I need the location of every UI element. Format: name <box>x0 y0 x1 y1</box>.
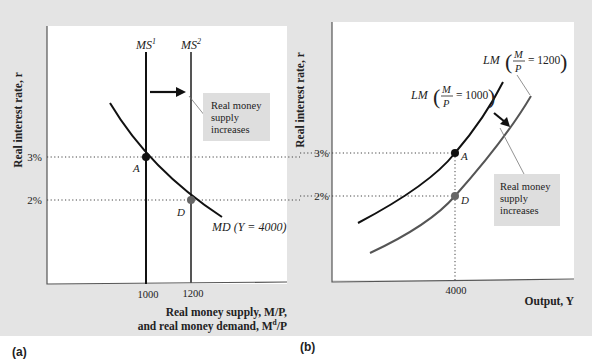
svg-text:(: ( <box>505 49 512 74</box>
panel-a-plot-area <box>47 26 287 284</box>
panel-a-x-axis-label-line1: Real money supply, M/P, <box>166 306 287 319</box>
svg-text:M: M <box>513 49 524 60</box>
panel-b-point-d <box>451 192 459 200</box>
panel-b-y-tick-3: 3% <box>314 147 329 159</box>
svg-text:= 1000: = 1000 <box>456 89 489 101</box>
panel-a-label-d: D <box>176 206 185 218</box>
panel-a-x-axis-label-line2: and real money demand, Md/P <box>138 318 287 333</box>
panel-a-chart: Real interest rate, r 3% 2% MS1 MS2 MD (… <box>12 26 300 333</box>
svg-text:M: M <box>441 84 452 95</box>
svg-text:(: ( <box>433 84 440 109</box>
panel-a-point-d <box>187 196 195 204</box>
panel-a-y-tick-3: 3% <box>27 151 42 163</box>
panel-b-y-tick-2: 2% <box>314 190 329 202</box>
panel-a-label: (a) <box>12 345 27 359</box>
panel-a-y-axis-label: Real interest rate, r <box>12 72 24 168</box>
panel-a-x-tick-1000: 1000 <box>138 289 159 300</box>
panel-b-label: (b) <box>300 340 315 354</box>
svg-text:= 1200: = 1200 <box>528 54 561 66</box>
panel-b-point-a <box>451 149 459 157</box>
svg-text:P: P <box>514 63 522 74</box>
panel-a-label-a: A <box>132 162 140 174</box>
panel-b-chart: Real interest rate, r 3% 2% LM ( M P = 1… <box>294 22 575 308</box>
svg-text:LM: LM <box>410 88 429 102</box>
svg-text:): ) <box>488 84 495 109</box>
panel-b-x-axis-label: Output, Y <box>525 295 575 308</box>
panel-a-point-a <box>142 153 150 161</box>
svg-text:LM: LM <box>482 53 501 67</box>
svg-text:): ) <box>560 49 567 74</box>
md-label: MD (Y = 4000) <box>211 220 286 234</box>
panel-a-x-tick-1200: 1200 <box>183 288 204 299</box>
svg-text:P: P <box>442 98 450 109</box>
panel-b-x-tick-4000: 4000 <box>446 285 467 296</box>
panel-b-y-axis-label: Real interest rate, r <box>294 52 306 148</box>
panel-b-label-a: A <box>460 150 468 162</box>
panel-a-y-tick-2: 2% <box>27 194 42 206</box>
panel-b-label-d: D <box>460 194 469 206</box>
